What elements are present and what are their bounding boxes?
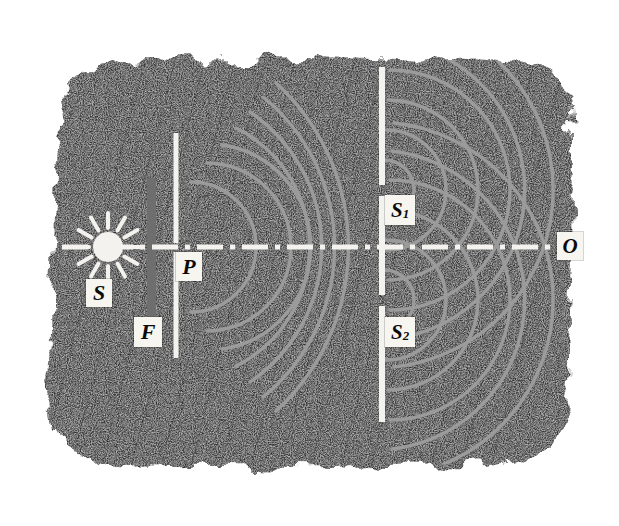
figure-canvas: S F P S1 S2 O (0, 0, 619, 526)
label-S: S (86, 279, 112, 307)
label-S2-text: S (391, 322, 403, 343)
label-P: P (176, 252, 202, 281)
label-S1-subscript: 1 (403, 207, 410, 220)
label-S1: S1 (385, 195, 415, 225)
label-F: F (134, 317, 162, 347)
ink-field (30, 40, 600, 490)
label-F-text: F (141, 321, 156, 343)
label-S2-subscript: 2 (403, 329, 410, 342)
diagram-svg (0, 0, 619, 526)
label-P-text: P (182, 256, 195, 278)
label-S1-text: S (391, 200, 403, 221)
label-S-text: S (93, 282, 105, 304)
label-O: O (557, 232, 583, 260)
label-S2: S2 (385, 317, 415, 347)
label-O-text: O (562, 236, 577, 257)
